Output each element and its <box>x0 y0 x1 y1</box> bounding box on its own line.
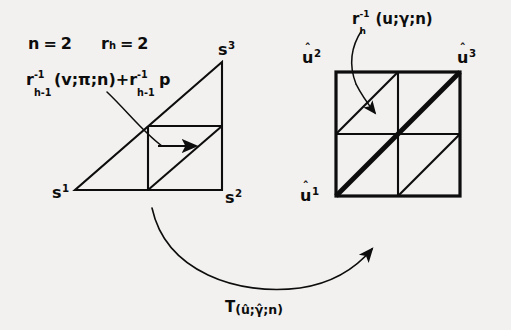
left-formula-superscript-2: -1 <box>137 70 148 80</box>
left-formula-superscript: -1 <box>34 70 45 80</box>
left-formula-subscript: h-1 <box>34 88 52 98</box>
left-formula-subscript-2: h-1 <box>137 88 155 98</box>
parameter-rh-value: 2 <box>137 36 148 52</box>
vertex-label-u1-hat: ˆ <box>303 182 309 194</box>
vertex-label-u3: ˆ u 3 <box>457 48 476 66</box>
parameter-rh-subscript: h <box>109 41 116 51</box>
parameter-n: n = 2 <box>28 36 72 52</box>
transformation-caption: T (û;γ̂;n) <box>225 300 283 317</box>
parameter-rh-symbol: r <box>101 36 109 52</box>
left-formula: r -1 h-1 (v;π;n) + r -1 h-1 p <box>26 72 171 88</box>
vertex-label-s3-index: 3 <box>228 39 235 51</box>
right-square-group <box>336 72 460 196</box>
vertex-label-u3-hat: ˆ <box>460 44 466 56</box>
right-formula-base-symbol: r <box>352 12 359 27</box>
vertex-label-u3-hatwrap: ˆ u <box>457 50 468 66</box>
vertex-label-s1-index: 1 <box>62 182 69 194</box>
vertex-label-u3-index: 3 <box>469 47 476 59</box>
vertex-label-s3-base: s <box>218 40 228 59</box>
right-square-cell-diagonal-bottom-right <box>398 134 460 196</box>
left-formula-base-symbol-2: r <box>129 72 137 88</box>
figure-root: n = 2 r h = 2 r -1 h-1 (v;π;n) + r -1 h-… <box>0 0 511 330</box>
right-formula-subscript: h <box>359 27 365 36</box>
vertex-label-u1: ˆ u 1 <box>300 186 319 204</box>
vertex-label-s1-base: s <box>52 183 62 202</box>
parameter-n-symbol: n <box>28 36 39 52</box>
right-formula-superscript: -1 <box>359 10 369 19</box>
left-formula-base-symbol: r <box>26 72 34 88</box>
transformation-caption-operator: T <box>225 300 235 315</box>
left-triangle-inner-diagonal <box>148 126 222 190</box>
parameter-n-value: 2 <box>61 36 72 52</box>
transformation-arc <box>152 208 372 289</box>
vertex-label-s3: s3 <box>218 40 235 58</box>
right-formula: r -1 h (u;γ;n) <box>352 12 433 27</box>
parameter-rh: r h = 2 <box>101 36 149 52</box>
left-formula-pointer <box>107 92 196 146</box>
right-formula-pointer-curve <box>352 30 362 84</box>
transformation-caption-args: (û;γ̂;n) <box>235 304 283 317</box>
parameter-n-equals: = <box>43 36 56 52</box>
parameter-rh-equals: = <box>120 36 133 52</box>
vertex-label-u2: ˆ u 2 <box>302 48 321 66</box>
left-formula-plus: + <box>116 72 129 88</box>
left-formula-args: (v;π;n) <box>54 72 116 88</box>
left-formula-trailing: p <box>159 72 170 88</box>
vertex-label-u2-index: 2 <box>314 47 321 59</box>
figure-line-art <box>0 0 511 330</box>
vertex-label-u2-hat: ˆ <box>305 44 311 56</box>
vertex-label-s2: s2 <box>225 188 242 206</box>
vertex-label-s2-index: 2 <box>235 187 242 199</box>
right-formula-args: (u;γ;n) <box>375 12 432 27</box>
vertex-label-u2-hatwrap: ˆ u <box>302 50 313 66</box>
vertex-label-u1-hatwrap: ˆ u <box>300 188 311 204</box>
vertex-label-u1-index: 1 <box>312 185 319 197</box>
vertex-label-s1: s1 <box>52 183 69 201</box>
vertex-label-s2-base: s <box>225 188 235 207</box>
transformation-arc-path <box>152 208 372 289</box>
